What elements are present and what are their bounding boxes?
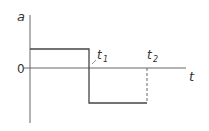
t1-pointer (92, 60, 96, 64)
t2-subscript: 2 (153, 55, 158, 64)
acceleration-time-diagram: a 0 t t 1 t 2 (0, 0, 209, 131)
t-axis-label: t (189, 69, 195, 84)
t1-subscript: 1 (103, 55, 108, 64)
acceleration-curve (30, 49, 147, 103)
y-axis-label: a (17, 9, 25, 24)
origin-label: 0 (17, 62, 25, 76)
